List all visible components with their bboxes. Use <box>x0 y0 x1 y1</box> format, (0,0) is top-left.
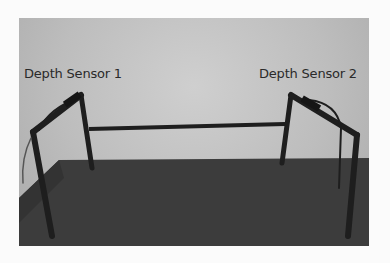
depth-sensor-1-label: Depth Sensor 1 <box>24 66 122 81</box>
cross-bar <box>89 124 285 129</box>
depth-sensor-2-label: Depth Sensor 2 <box>259 66 357 81</box>
sensor-setup-photo: Depth Sensor 1 Depth Sensor 2 <box>19 18 369 246</box>
table-surface <box>19 158 369 246</box>
scene-drawing <box>19 18 369 246</box>
